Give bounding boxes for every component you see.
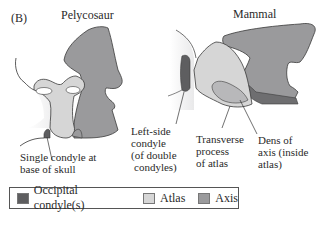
legend: Occipital condyle(s) Atlas Axis — [9, 187, 239, 209]
mammal-drawing — [168, 23, 315, 134]
pelycosaur-occipital-condyle — [44, 129, 50, 138]
axis-swatch-icon — [198, 193, 210, 204]
occipital-swatch-icon — [17, 193, 29, 204]
mammal-occipital-condyle — [181, 55, 191, 91]
legend-item-axis: Axis — [198, 191, 238, 206]
pelycosaur-drawing — [15, 27, 122, 160]
legend-item-atlas: Atlas — [143, 191, 185, 206]
atlas-swatch-icon — [143, 193, 155, 204]
annotation-transverse-process: Transverse process of atlas — [196, 133, 244, 169]
annotation-single-condyle: Single condyle at base of skull — [20, 151, 96, 175]
legend-item-occipital: Occipital condyle(s) — [17, 183, 130, 213]
annotation-left-side-condyle: Left-side condyle (of double condyles) — [131, 125, 177, 173]
annotation-dens: Dens of axis (inside atlas) — [258, 134, 308, 170]
